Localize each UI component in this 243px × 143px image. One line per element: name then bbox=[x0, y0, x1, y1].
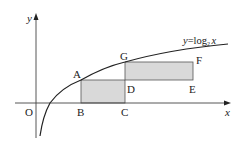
log-graph-diagram: y x O A B C D E F G y=log2x bbox=[0, 0, 243, 143]
function-label: y=log2x bbox=[182, 35, 217, 47]
point-label-f: F bbox=[196, 54, 202, 66]
point-label-e: E bbox=[189, 83, 196, 95]
y-axis-label: y bbox=[26, 12, 32, 24]
point-label-d: D bbox=[127, 83, 135, 95]
function-label-x: x bbox=[211, 35, 217, 46]
point-label-g: G bbox=[120, 50, 128, 62]
rectangle-abcd bbox=[81, 80, 125, 103]
point-label-b: B bbox=[77, 106, 84, 118]
origin-label: O bbox=[25, 106, 33, 118]
x-axis-label: x bbox=[224, 106, 230, 118]
function-label-log: log bbox=[194, 35, 208, 46]
rectangle-gdef bbox=[125, 62, 193, 80]
point-label-c: C bbox=[121, 106, 128, 118]
y-axis-arrow-icon bbox=[34, 13, 39, 20]
point-label-a: A bbox=[73, 68, 81, 80]
x-axis-arrow-icon bbox=[224, 101, 231, 106]
function-label-base: 2 bbox=[207, 41, 210, 47]
